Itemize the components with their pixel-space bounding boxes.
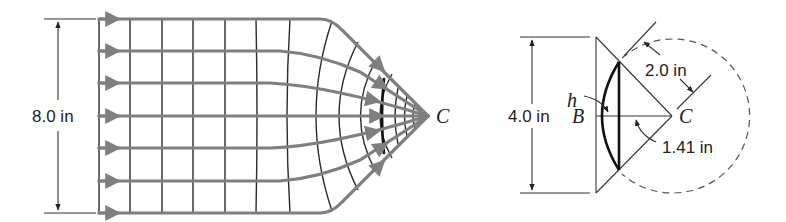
point-b-label: B (572, 105, 584, 127)
streamlines (99, 19, 428, 213)
radius-dimension: 2.0 in (624, 22, 711, 109)
height-label-8in: 8.0 in (32, 107, 74, 126)
height-dimension-8in: 8.0 in (32, 19, 96, 213)
flow-net-diagram: 8.0 in (0, 0, 786, 222)
distance-label: 1.41 in (662, 138, 713, 157)
radius-label: 2.0 in (645, 61, 687, 80)
right-geometry-figure: 4.0 in 2.0 in h B C 1.41 (508, 22, 750, 193)
height-label-4in: 4.0 in (508, 107, 550, 126)
point-c-label-left: C (436, 105, 450, 127)
point-c-label-right: C (679, 105, 693, 127)
left-flow-net: 8.0 in (32, 19, 450, 213)
